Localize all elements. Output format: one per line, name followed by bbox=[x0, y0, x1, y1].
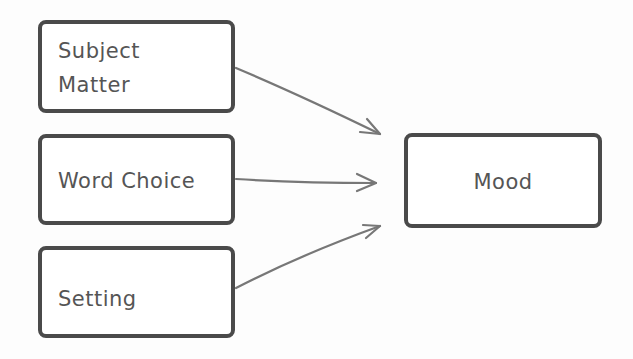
node-label: Mood bbox=[408, 165, 598, 199]
node-word-choice: Word Choice bbox=[38, 134, 235, 225]
arrow-setting-to-mood bbox=[236, 226, 380, 288]
node-mood: Mood bbox=[404, 133, 602, 228]
arrow-word-to-mood bbox=[236, 179, 376, 183]
node-label: Word Choice bbox=[58, 164, 195, 198]
node-subject-matter: Subject Matter bbox=[38, 20, 235, 113]
node-setting: Setting bbox=[38, 246, 235, 338]
arrow-subject-to-mood bbox=[236, 68, 380, 134]
node-label: Subject Matter bbox=[58, 34, 208, 102]
node-label: Setting bbox=[58, 282, 137, 316]
